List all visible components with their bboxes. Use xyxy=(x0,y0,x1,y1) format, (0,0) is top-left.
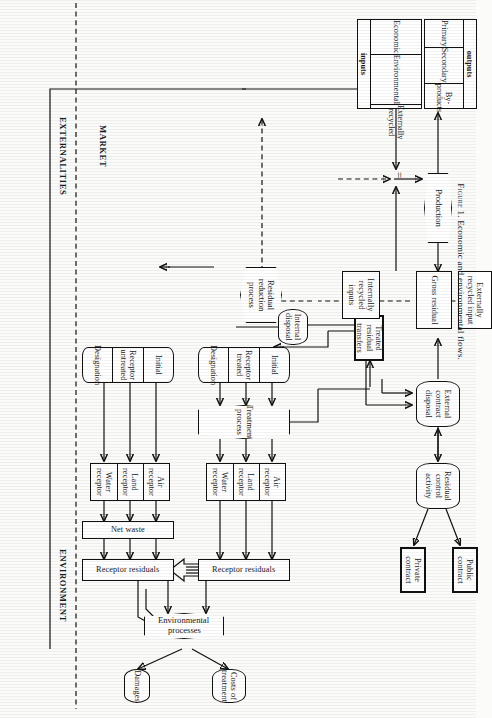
residual-reduction-process-node: Residual reduction process xyxy=(240,267,282,323)
figure-caption-prefix: Figure 1. xyxy=(456,183,466,217)
receptor-treated-designation: Designation xyxy=(199,348,228,382)
production-node: Production xyxy=(424,173,452,243)
inputs-span-label: inputs xyxy=(357,19,370,109)
public-contract-node: Public contract xyxy=(452,547,478,593)
outputs-cell-primary: Primary xyxy=(425,20,463,48)
receptor-treated-middle: Receptor treated xyxy=(228,348,258,382)
receptor-treated-initial: Initial xyxy=(259,348,289,382)
equals-sign: = xyxy=(394,172,406,178)
outputs-span-label: outputs xyxy=(464,19,477,109)
treated-residual-transfers-node: Treated residual transfers xyxy=(354,315,384,361)
private-contract-node: Private contract xyxy=(400,547,426,593)
treated-air-receptor-node: Air receptor xyxy=(258,463,286,501)
receptor-untreated-designation: Designation xyxy=(83,348,112,382)
treated-land-receptor-node: Land receptor xyxy=(232,463,260,501)
receptor-untreated-group: Initial Receptor untreated Designation xyxy=(82,347,174,383)
figure-caption-text: Economic and environmental flows. xyxy=(456,220,466,360)
costs-of-treatment-node: Costs of treatment xyxy=(212,669,246,703)
rotated-figure-container: Economic Environmental Externally recycl… xyxy=(8,9,468,709)
zone-label-externalities: EXTERNALITIES xyxy=(58,117,68,195)
residual-control-activity-node: Residual control activity xyxy=(416,463,460,509)
internally-recycled-inputs-node: Internally recycled inputs xyxy=(342,271,380,319)
untreated-land-receptor-node: Land receptor xyxy=(116,463,144,501)
net-waste-node: Net waste xyxy=(82,521,174,539)
untreated-air-receptor-node: Air receptor xyxy=(142,463,170,501)
environmental-processes-node: Environmental processes xyxy=(144,613,224,639)
inputs-cell-environmental: Environmental xyxy=(371,55,421,105)
outputs-table: Primary Secondary By-products xyxy=(424,19,464,109)
inputs-table: Economic Environmental Externally recycl… xyxy=(370,19,422,109)
damages-node: Damages xyxy=(124,669,150,703)
gross-residual-node: Gross residual xyxy=(416,271,452,329)
inputs-cell-externally-recycled: Externally recycled xyxy=(371,105,421,140)
inputs-cell-economic: Economic xyxy=(371,20,421,55)
figure-caption: Figure 1. Economic and environmental flo… xyxy=(456,183,466,360)
treated-water-receptor-node: Water receptor xyxy=(206,463,234,501)
receptor-residuals-lower: Receptor residuals xyxy=(82,559,174,581)
outputs-cell-secondary: Secondary xyxy=(425,48,463,84)
untreated-water-receptor-node: Water receptor xyxy=(90,463,118,501)
receptor-residuals-upper: Receptor residuals xyxy=(198,559,290,581)
receptor-treated-group: Initial Receptor treated Designation xyxy=(198,347,290,383)
treatment-process-node: Treatment process xyxy=(198,405,290,439)
internal-disposal-node: Internal disposal xyxy=(278,309,308,345)
receptor-untreated-initial: Initial xyxy=(143,348,173,382)
zone-label-environment: ENVIRONMENT xyxy=(58,549,68,622)
outputs-cell-byproducts: By-products xyxy=(425,84,463,113)
zone-label-market: MARKET xyxy=(98,125,108,167)
flow-diagram: Economic Environmental Externally recycl… xyxy=(28,9,468,709)
receptor-untreated-middle: Receptor untreated xyxy=(112,348,142,382)
external-contract-disposal-node: External contract disposal xyxy=(416,381,460,427)
